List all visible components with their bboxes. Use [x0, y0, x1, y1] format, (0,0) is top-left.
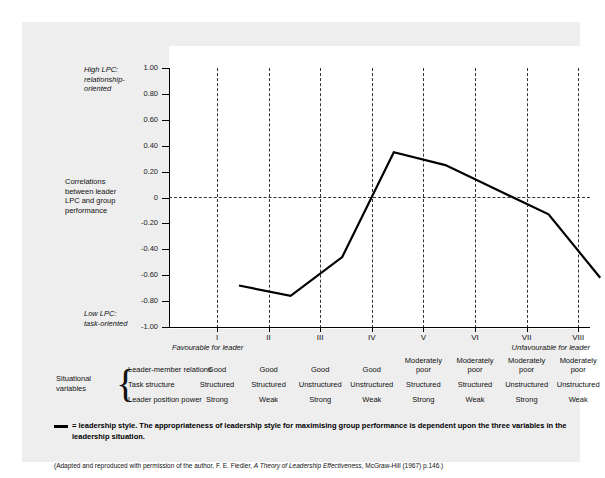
- situational-cell: Unstructured: [498, 380, 556, 389]
- situational-cell: Strong: [188, 395, 246, 404]
- situational-cell: Weak: [343, 395, 401, 404]
- situational-row-label: Task structure: [128, 380, 175, 389]
- situational-cell: Good: [240, 365, 298, 374]
- curly-brace-icon: {: [116, 361, 125, 407]
- situational-variables-label: Situational variables: [56, 374, 116, 393]
- situational-cell: Strong: [291, 395, 349, 404]
- situational-cell: Good: [291, 365, 349, 374]
- axis-note-correlations: Correlations between leader LPC and grou…: [65, 177, 165, 215]
- situational-cell: Strong: [498, 395, 556, 404]
- legend-description-line2: leadership situation.: [72, 431, 582, 442]
- situational-cell: Good: [343, 365, 401, 374]
- situational-cell: Structured: [240, 380, 298, 389]
- situational-cell: Moderatelypoor: [498, 356, 556, 374]
- situational-cell: Unstructured: [291, 380, 349, 389]
- situational-cell: Unstructured: [343, 380, 401, 389]
- source-title: A Theory of Leadership Effectiveness: [254, 462, 362, 469]
- situational-cell: Unstructured: [549, 380, 605, 389]
- x-axis-note-favourable: Favourable for leader: [172, 343, 243, 352]
- situational-cell: Moderatelypoor: [394, 356, 452, 374]
- x-axis-note-unfavourable: Unfavourable for leader: [470, 343, 590, 352]
- situational-cell: Weak: [446, 395, 504, 404]
- legend-description: = leadership style. The appropriateness …: [72, 420, 582, 442]
- situational-cell: Structured: [394, 380, 452, 389]
- situational-cell: Weak: [240, 395, 298, 404]
- legend-line-swatch-icon: [54, 425, 68, 428]
- axis-note-low-lpc-line1: Low LPC:: [84, 309, 164, 319]
- axis-note-high-lpc: High LPC: relationship- oriented: [84, 65, 164, 94]
- situational-cell: Weak: [549, 395, 605, 404]
- source-suffix: , McGraw-Hill (1967) p.146.): [362, 462, 444, 469]
- source-prefix: (Adapted and reproduced with permission …: [54, 462, 254, 469]
- axis-note-correlations-line2: between leader: [65, 187, 165, 197]
- situational-cell: Good: [188, 365, 246, 374]
- axis-note-correlations-line1: Correlations: [65, 177, 165, 187]
- situational-cell: Structured: [188, 380, 246, 389]
- axis-note-high-lpc-line2: relationship-: [84, 75, 164, 85]
- source-attribution: (Adapted and reproduced with permission …: [54, 462, 574, 469]
- figure-card: 1.000.800.600.400.200-0.20-0.40-0.60-0.8…: [22, 22, 580, 462]
- situational-variables-label-line1: Situational: [56, 374, 116, 384]
- axis-note-low-lpc-line2: task-oriented: [84, 319, 164, 329]
- situational-cell: Strong: [394, 395, 452, 404]
- situational-variables-label-line2: variables: [56, 384, 116, 394]
- axis-note-correlations-line4: performance: [65, 206, 165, 216]
- axis-note-high-lpc-line1: High LPC:: [84, 65, 164, 75]
- axis-note-correlations-line3: LPC and group: [65, 196, 165, 206]
- situational-cell: Moderatelypoor: [549, 356, 605, 374]
- axis-note-low-lpc: Low LPC: task-oriented: [84, 309, 164, 328]
- situational-cell: Moderatelypoor: [446, 356, 504, 374]
- legend-description-line1: = leadership style. The appropriateness …: [72, 420, 582, 431]
- situational-cell: Structured: [446, 380, 504, 389]
- axis-note-high-lpc-line3: oriented: [84, 84, 164, 94]
